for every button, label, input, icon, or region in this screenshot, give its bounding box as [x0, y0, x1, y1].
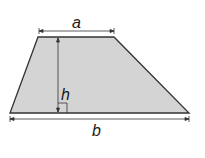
trapezoid-shape — [10, 37, 189, 113]
bottom-base-label: b — [92, 122, 101, 139]
top-base-label: a — [72, 14, 81, 31]
height-label: h — [61, 86, 70, 103]
trapezoid-diagram: a h b — [0, 0, 205, 158]
